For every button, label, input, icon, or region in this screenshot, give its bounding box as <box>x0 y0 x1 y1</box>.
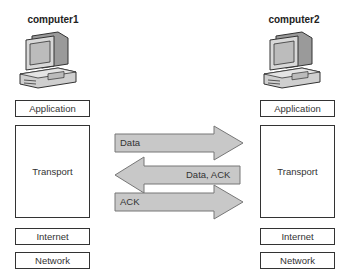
data-ack-arrow-label: Data, ACK <box>186 169 230 180</box>
data-arrow-label: Data <box>120 137 140 148</box>
message-arrows <box>0 0 347 280</box>
ack-arrow-label: ACK <box>120 196 140 207</box>
